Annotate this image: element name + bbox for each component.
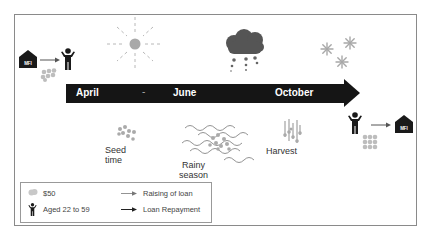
legend-coin-label: $50 [43, 189, 56, 198]
month-april: April [76, 87, 99, 98]
person-icon-left [61, 48, 75, 70]
coin-legend-icon [28, 188, 38, 197]
rainy-season-line-2: season [179, 170, 208, 180]
timeline-arrowhead [344, 79, 360, 107]
sun-icon [105, 15, 165, 73]
legend-raising-label: Raising of loan [143, 189, 193, 198]
repayment-legend-arrow-icon [121, 207, 137, 212]
svg-text:MFI: MFI [24, 61, 32, 66]
harvest-label: Harvest [266, 146, 297, 156]
seed-time-line-1: Seed [105, 145, 126, 155]
legend: $50 Aged 22 to 59 Raising of loan Loan R… [20, 182, 212, 223]
rainy-season-line-1: Rainy [179, 160, 208, 170]
mfi-house-icon-right: MFI [395, 115, 413, 133]
repayment-arrow-icon [371, 122, 391, 128]
person-icon-right [348, 112, 362, 134]
timeline-separator: - [142, 86, 145, 97]
snowflake-icon [318, 32, 364, 72]
raising-loan-arrow-icon [40, 57, 60, 63]
seeds-icon [114, 124, 140, 144]
legend-repayment-label: Loan Repayment [143, 205, 200, 214]
legend-person-label: Aged 22 to 59 [43, 205, 90, 214]
month-june: June [173, 87, 196, 98]
coins-icon-left [40, 68, 60, 82]
svg-text:MFI: MFI [400, 126, 408, 131]
person-legend-icon [28, 203, 37, 216]
rainy-season-label: Rainy season [179, 160, 208, 180]
coins-icon-right [362, 134, 384, 150]
mfi-house-icon-left: MFI [19, 50, 37, 68]
seed-time-line-2: time [105, 155, 126, 165]
seed-time-label: Seed time [105, 145, 126, 165]
harvest-plants-icon [281, 117, 303, 145]
rain-cloud-icon [224, 29, 266, 73]
raising-loan-legend-arrow-icon [121, 191, 137, 196]
month-october: October [275, 87, 313, 98]
